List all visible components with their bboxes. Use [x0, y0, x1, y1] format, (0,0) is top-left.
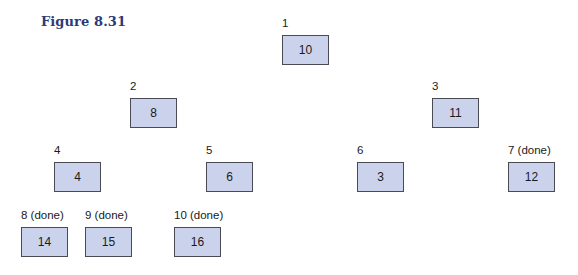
node-value-box: 6 [206, 162, 253, 192]
node-index-label: 5 [206, 144, 212, 156]
node-index-label: 8 (done) [21, 209, 64, 221]
node-index-label: 10 (done) [174, 209, 223, 221]
node-value-box: 12 [508, 162, 555, 192]
node-value-box: 16 [174, 227, 221, 257]
node-value-box: 3 [357, 162, 404, 192]
node-value-box: 8 [130, 98, 177, 128]
node-value-box: 15 [85, 227, 132, 257]
node-index-label: 9 (done) [85, 209, 128, 221]
node-index-label: 7 (done) [508, 144, 551, 156]
node-index-label: 6 [357, 144, 363, 156]
figure-title: Figure 8.31 [41, 14, 126, 29]
node-value-box: 14 [21, 227, 68, 257]
node-value-box: 10 [282, 35, 329, 65]
node-index-label: 2 [130, 80, 136, 92]
node-index-label: 1 [282, 17, 288, 29]
node-index-label: 4 [54, 144, 60, 156]
node-value-box: 4 [54, 162, 101, 192]
node-value-box: 11 [432, 98, 479, 128]
node-index-label: 3 [432, 80, 438, 92]
